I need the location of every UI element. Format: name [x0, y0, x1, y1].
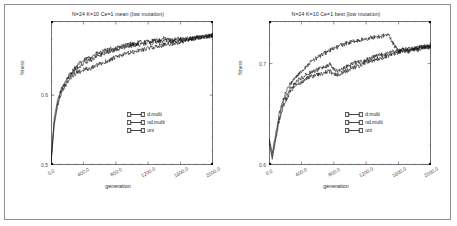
legend-item: d.multi — [127, 110, 165, 118]
legend: d.multi nd.multi uni — [127, 110, 165, 134]
plot-area-best — [269, 21, 431, 165]
legend-label: d.multi — [147, 111, 162, 118]
figure: N=24 K=10 Ce=1 mean (low mutation) fitne… — [5, 5, 452, 221]
legend-marker — [345, 119, 363, 126]
legend-marker — [345, 111, 363, 118]
plot-svg — [269, 21, 431, 165]
legend-item: d.multi — [345, 110, 383, 118]
legend: d.multi nd.multi uni — [345, 110, 383, 134]
y-tick-label: 0.7 — [244, 61, 266, 67]
chart-panel-best: N=24 K=10 Ce=1 best (low mutation) fitne… — [227, 5, 445, 205]
legend-item: nd.multi — [345, 118, 383, 126]
y-axis-label: fitness — [237, 61, 243, 75]
legend-label: d.multi — [365, 111, 380, 118]
legend-marker — [127, 119, 145, 126]
legend-item: uni — [345, 126, 383, 134]
legend-marker — [345, 127, 363, 134]
y-tick-label: 0.6 — [244, 162, 266, 168]
chart-title: N=24 K=10 Ce=1 mean (low mutation) — [9, 11, 227, 17]
legend-marker — [127, 127, 145, 134]
legend-label: nd.multi — [365, 119, 383, 126]
plot-svg — [51, 21, 213, 165]
figure-page: N=24 K=10 Ce=1 mean (low mutation) fitne… — [4, 4, 451, 220]
chart-panel-mean: N=24 K=10 Ce=1 mean (low mutation) fitne… — [9, 5, 227, 205]
legend-label: uni — [147, 127, 154, 134]
legend-marker — [127, 111, 145, 118]
plot-area-mean — [51, 21, 213, 165]
y-axis-label: fitness — [19, 61, 25, 75]
chart-title: N=24 K=10 Ce=1 best (low mutation) — [227, 11, 445, 17]
x-axis-label: generation — [9, 183, 227, 189]
legend-label: uni — [365, 127, 372, 134]
legend-label: nd.multi — [147, 119, 165, 126]
legend-item: nd.multi — [127, 118, 165, 126]
y-tick-label: 0.6 — [26, 92, 48, 98]
y-tick-label: 0.5 — [26, 162, 48, 168]
x-axis-label: generation — [227, 183, 445, 189]
legend-item: uni — [127, 126, 165, 134]
